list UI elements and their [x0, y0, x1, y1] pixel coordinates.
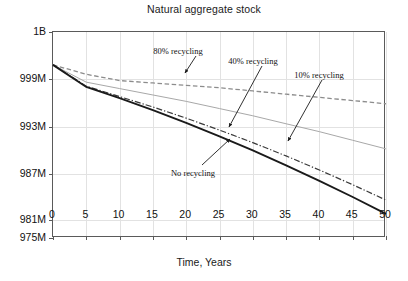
chart-title: Natural aggregate stock: [0, 3, 408, 15]
chart-figure: Natural aggregate stock 1B999M993M987M98…: [0, 0, 408, 281]
y-tick-label: 993M: [0, 120, 46, 132]
y-tick-label: 975M: [0, 231, 46, 243]
y-tick-label: 987M: [0, 167, 46, 179]
x-tick-mark: [386, 236, 387, 240]
annotation-label: No recycling: [171, 168, 215, 178]
annotation-label: 10% recycling: [294, 70, 343, 80]
x-tick-label: 50: [365, 208, 405, 220]
series-line-no-recycling: [53, 65, 386, 214]
plot-area: [52, 31, 385, 237]
x-axis-title: Time, Years: [0, 256, 408, 268]
gridline-vertical: [386, 32, 387, 236]
annotation-label: 80% recycling: [153, 46, 202, 56]
y-tick-label: 1B: [0, 25, 46, 37]
y-tick-label: 999M: [0, 72, 46, 84]
annotation-label: 40% recycling: [228, 56, 277, 66]
